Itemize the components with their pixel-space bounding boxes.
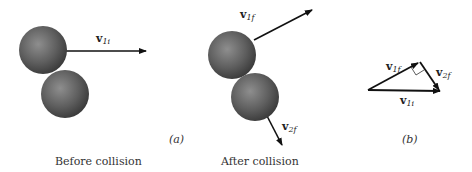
v1f-label: v1f [240, 8, 254, 22]
v1i-triangle-arrow [368, 90, 440, 91]
before-caption: Before collision [55, 155, 142, 168]
v1f-arrow [254, 10, 312, 40]
ball-1-after [208, 31, 256, 79]
triangle-v1i-label: v1i [400, 94, 414, 108]
triangle-v2f-label-sub: 2f [442, 71, 450, 80]
v1f-label-sub: 1f [246, 13, 254, 22]
panel-b-label: (b) [402, 133, 418, 146]
v1i-label-sub: 1i [102, 37, 110, 46]
before-collision-group [19, 26, 146, 118]
ball-2-after [231, 73, 279, 121]
triangle-v1f-label-sub: 1f [392, 65, 400, 74]
v2f-label-sub: 2f [288, 125, 296, 134]
panel-a-label: (a) [169, 133, 184, 146]
v2f-arrow [266, 114, 282, 145]
triangle-v2f-label: v2f [436, 66, 450, 80]
triangle-v1f-label: v1f [386, 60, 400, 74]
collision-diagram [0, 0, 472, 172]
right-angle-marker [411, 67, 424, 75]
after-caption: After collision [221, 155, 299, 168]
v2f-label: v2f [282, 120, 296, 134]
vector-triangle [368, 62, 440, 91]
triangle-v1i-label-sub: 1i [406, 99, 414, 108]
ball-2-before [41, 70, 89, 118]
v1i-label: v1i [96, 32, 110, 46]
ball-1-before [19, 26, 67, 74]
